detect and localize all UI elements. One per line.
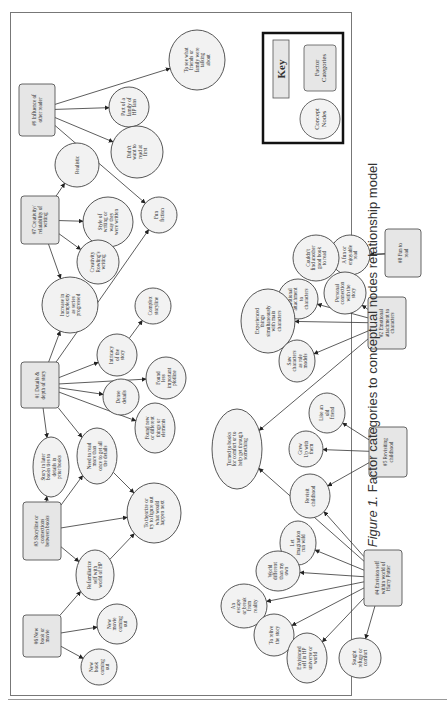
relationship-diagram: #1 Details &depth of story#2 Emotionalat… [0,0,447,709]
factor-category-f3: #3 Storyline orconnectionsbetween books [23,502,61,560]
edge-f4-c_revisit [324,512,364,557]
concept-node-c_grew_up: GrewUp withthem [289,431,323,467]
concept-node-c_refuge: Soughtrefuge orcomfort [339,638,381,678]
concept-node-c_found_less: Foundlessimportantplotline [146,357,186,399]
concept-node-c_new_movie: Newmoviecomingout [97,604,137,644]
diagram-canvas: #1 Details &depth of story#2 Emotionalat… [0,0,447,709]
concept-node-c_story_later: Story in laterbooks ties todetails inpri… [33,437,69,497]
concept-node-c_see_friends: To see whatfriends orfamily weretalkinga… [169,30,225,90]
concept-node-c_increase: Increase incomplexityas seriesprogressed [42,277,98,333]
concept-node-c_couldnt_find: Couldn'tfind anothergood bookto read [293,235,339,281]
edge-f3-c_story_later [46,496,47,502]
caption-text: Factor categories to conceptual nodes re… [365,163,380,493]
edge-f7-c_style [59,221,83,222]
node-label: Part of afamily ofHP fans [120,97,137,116]
node-label: Found newor differentthings orelements [144,416,166,440]
edge-f4-c_refuge [366,606,375,639]
figure-caption: Figure 1. Factor categories to conceptua… [365,163,380,547]
edge-f2-c_experienced [295,321,368,322]
node-label: Story in laterbooks ties todetails inpri… [40,453,62,480]
node-label: Soughtrefuge orcomfort [351,648,368,667]
edge-c_need_reread-c_theorize [113,472,134,493]
node-label: #6 Newbook ormovie [33,628,50,645]
concept-node-c_role_models: Sawcharactersas rolemodels [279,340,315,382]
caption-label: Figure 1. [365,496,380,547]
factor-category-f7: #7 Creativity/relatability ofwriting [21,196,59,244]
factor-category-f9: #9 Influence ofother reader [19,84,55,136]
node-label: Realistic [74,155,80,174]
concept-node-c_fun_fiction: Funfiction [141,197,177,233]
node-label: ConceptNodes [313,108,327,130]
factor-category-f1: #1 Details &depth of story [21,362,59,408]
factor-category-f6: #6 Newbook ormovie [23,615,61,657]
edge-f1-c_intricacy [59,362,98,377]
node-label: To relivethe story [268,625,279,644]
concept-node-c_new_book: Newbookcomingout [81,649,117,685]
node-label: #5 Revisitingchildhood [382,438,393,466]
concept-node-c_need_reread: Need to readmore thanonce to get allthe … [77,428,117,484]
edge-f1-c_need_reread [58,408,82,437]
node-label: Densedetails [115,390,126,404]
edge-f4-c_world_diff [300,572,364,576]
node-label: Complexstoryline [147,296,158,315]
edge-f3-c_refamiliarize [61,547,79,562]
edge-f7-c_increase [48,244,60,279]
edge-f6-c_new_book [61,646,83,658]
edge-f1-c_story_later [43,408,47,438]
concept-node-c_envisioned: Envisionedself in HPuniverse orworld [287,633,327,683]
node-label: #4 Envision selfwithin world ofHarry Pot… [374,561,391,595]
edge-f4-c_envisioned [322,598,364,642]
concept-node-c_theorize: To theorize ortry to figure outwhat woul… [127,483,181,543]
node-label: #9 Influence ofother reader [31,94,42,126]
factor-category-f4: #4 Envision selfwithin world ofHarry Pot… [364,550,402,606]
edge-f6-c_refamiliarize [60,591,80,615]
bottom-rule [8,699,447,700]
edge-c_refamiliarize-c_theorize [110,534,135,560]
factor-category-f8: #8 Fun toread [385,229,421,277]
key-title: Key [275,59,287,78]
concept-node-c_creativity: CreativityRowling'swriting [77,240,119,284]
concept-node-c_revisit: Revisitchildhood [290,474,330,518]
edge-c_intricacy-c_complex [129,321,142,339]
concept-node-c_realistic: Realistic [55,143,99,187]
edge-f7-c_creativity [59,234,81,250]
node-label: #2 Emotionalattachment tocharacters [378,308,395,337]
edge-f9-c_didnt_want [55,118,113,142]
concept-node-c_old_friend: Like anoldfriend [309,393,345,433]
edge-f7-c_realistic [56,183,65,196]
concept-node-c_part_family: Part of afamily ofHP fans [109,87,149,127]
concept-node-c_found_new: Found newor differentthings orelements [135,403,175,453]
concept-node-c_refamiliarize: Refamiliarizeself withworld of HP [76,550,114,600]
concept-node-c_turned: Turned to booksfor comfort or tohelp get… [212,409,262,489]
edge-f3-c_theorize [61,517,127,528]
edge-f4-c_imagination [315,550,364,570]
concept-node-c_personal: Personalconnectionwith thestory [324,272,366,314]
edge-f6-c_new_movie [61,627,97,633]
key-legend: KeyFactorCategoriesConceptNodes [263,33,343,143]
concept-node-c_dense: Densedetails [103,379,139,415]
concept-node-c_style: Style ofwriting orway theywere written [83,197,133,247]
node-label: Increase incomplexityas seriesprogressed [59,293,81,317]
edge-f5-c_revisit [328,463,369,486]
edge-f4-c_relive [292,588,364,626]
edge-f1-c_dense [59,388,103,395]
nodes-layer: #1 Details &depth of story#2 Emotionalat… [19,30,421,685]
node-label: To theorize ortry to figure outwhat woul… [143,496,165,529]
edge-f2-c_role_models [314,331,368,354]
edge-f5-c_grew_up [323,450,369,452]
node-label: #1 Details &depth of story [34,370,45,399]
concept-node-c_didnt_want: Didn'twant toread atfirst [111,126,163,178]
edge-f1-c_increase [49,331,61,362]
edge-f9-c_part_family [55,108,109,110]
concept-node-c_intricacy: Intricacyof thestory [97,334,137,376]
concept-node-c_complex: Complexstoryline [135,288,171,324]
node-label: #3 Storyline orconnectionsbetween books [33,515,50,546]
concept-node-c_world_diff: Worlddifferentthan myown [256,551,300,591]
